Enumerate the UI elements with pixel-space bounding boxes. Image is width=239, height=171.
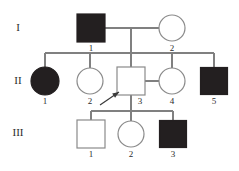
- id-label-III-2: 2: [129, 149, 134, 159]
- id-label-III-3: 3: [171, 149, 176, 159]
- id-label-II-5: 5: [212, 96, 217, 106]
- symbol-square-II-3[interactable]: [117, 67, 145, 95]
- individual-II-4[interactable]: [159, 68, 185, 94]
- id-label-I-2: 2: [170, 43, 175, 53]
- id-label-II-2: 2: [88, 96, 93, 106]
- generation-label-II: II: [14, 74, 22, 86]
- individual-III-3[interactable]: [160, 121, 187, 148]
- id-label-II-3: 3: [138, 96, 143, 106]
- individual-II-5[interactable]: [201, 68, 228, 95]
- pedigree-chart: 1212345123IIIIII: [0, 0, 239, 171]
- symbol-square-II-5[interactable]: [201, 68, 228, 95]
- proband-arrow: [100, 92, 119, 105]
- individual-I-2[interactable]: [159, 15, 185, 41]
- symbol-circle-II-2[interactable]: [77, 68, 103, 94]
- individual-II-1[interactable]: [31, 67, 59, 95]
- symbol-square-III-3[interactable]: [160, 121, 187, 148]
- symbol-circle-III-2[interactable]: [118, 121, 144, 147]
- id-label-III-1: 1: [89, 149, 94, 159]
- symbol-circle-II-1[interactable]: [31, 67, 59, 95]
- individual-I-1[interactable]: [77, 14, 105, 42]
- symbol-square-III-1[interactable]: [77, 120, 105, 148]
- individual-II-2[interactable]: [77, 68, 103, 94]
- individual-III-2[interactable]: [118, 121, 144, 147]
- symbol-circle-II-4[interactable]: [159, 68, 185, 94]
- individual-III-1[interactable]: [77, 120, 105, 148]
- generation-label-I: I: [16, 21, 20, 33]
- id-label-I-1: 1: [89, 43, 94, 53]
- symbol-square-I-1[interactable]: [77, 14, 105, 42]
- pedigree-canvas: 1212345123IIIIII: [0, 0, 239, 171]
- generation-label-III: III: [13, 126, 24, 138]
- id-label-II-4: 4: [170, 96, 175, 106]
- symbol-circle-I-2[interactable]: [159, 15, 185, 41]
- id-label-II-1: 1: [43, 96, 48, 106]
- individual-II-3[interactable]: [117, 67, 145, 95]
